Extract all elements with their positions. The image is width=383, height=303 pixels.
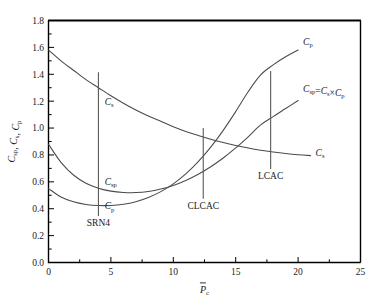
x-tick-label: 25 [356,267,366,277]
x-tick-label: 0 [46,267,51,277]
curve-label-cp-0: Cp [303,37,313,48]
y-tick-label: 1.6 [32,43,44,53]
x-axis-ticks [49,257,361,263]
curve-label-csp-4: Csp [105,177,118,188]
marker-lines [98,71,270,216]
marker-label-clcac: CLCAC [187,201,219,211]
x-axis-title-text: Pc [199,284,209,296]
y-tick-label: 0.2 [32,231,44,241]
data-curves [49,50,311,206]
curve-label-cs-2: Cs [316,148,325,159]
curve-label-cp-5: Cp [105,201,115,212]
chart-container: 0.00.20.40.60.81.01.21.41.61.8 051015202… [0,0,383,303]
curve-label-csp_eq-1: Csp=Cs×Cp [303,84,345,100]
marker-label-lcac: LCAC [258,171,283,181]
y-tick-label: 0.4 [32,204,44,214]
x-axis-tick-labels: 0510152025 [46,267,365,277]
marker-labels: SRN4CLCACLCAC [87,171,284,228]
x-tick-label: 20 [293,267,303,277]
y-tick-label: 1.2 [32,97,44,107]
y-tick-label: 1.4 [32,70,44,80]
chart-figure: 0.00.20.40.60.81.01.21.41.61.8 051015202… [0,0,383,303]
y-axis-title-text: Csp, Cs, Cp [6,120,23,162]
curve-cp [49,50,299,206]
y-tick-label: 1.8 [32,16,44,26]
x-tick-label: 15 [231,267,241,277]
curve-labels: CpCsp=Cs×CpCsCsCspCp [105,37,346,213]
x-tick-label: 10 [169,267,179,277]
curve-label-cs-3: Cs [105,97,114,108]
y-tick-label: 0.6 [32,177,44,187]
y-axis-tick-labels: 0.00.20.40.60.81.01.21.41.61.8 [32,16,44,268]
y-tick-label: 0.8 [32,150,44,160]
y-axis-title: Csp, Cs, Cp [6,120,23,162]
x-axis-title: Pc [199,283,209,296]
y-axis-ticks [49,21,55,263]
marker-label-srn4: SRN4 [87,218,110,228]
y-tick-label: 0.0 [32,258,44,268]
y-tick-label: 1.0 [32,123,44,133]
x-tick-label: 5 [109,267,114,277]
